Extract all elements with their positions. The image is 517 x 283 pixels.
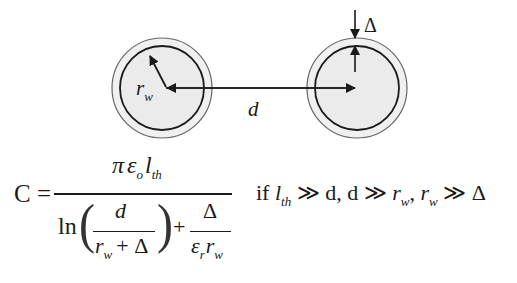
formula-condition: if lth ≫ d, d ≫ rw, rw ≫ Δ [256, 180, 486, 206]
frac1-denominator: rw+ Δ [95, 233, 148, 259]
plus-sign: + [173, 214, 185, 240]
left-paren: ( [79, 192, 95, 255]
frac2-numerator: Δ [203, 198, 217, 224]
formula-numerator: πεolth [112, 152, 162, 179]
right-paren: ) [157, 192, 173, 255]
formula-lhs: C = [14, 180, 51, 208]
formula-ln: ln [58, 213, 77, 240]
capacitance-formula: C = πεolth ln ( d rw+ Δ ) + Δ εrrw if lt… [0, 0, 517, 283]
frac1-numerator: d [115, 198, 126, 224]
frac2-denominator: εrrw [191, 233, 223, 259]
